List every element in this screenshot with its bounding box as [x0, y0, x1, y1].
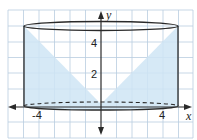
coordinate-plane: y x -4 4 2 4: [0, 0, 197, 140]
right-shaded-wedge: [101, 26, 178, 106]
cylinder-cone-figure: y x -4 4 2 4: [0, 0, 197, 140]
x-tick-label-4: 4: [159, 109, 165, 121]
x-axis-label: x: [185, 109, 192, 123]
y-axis-down-arrow-icon: [98, 127, 104, 135]
x-tick-label-neg4: -4: [32, 109, 42, 121]
y-axis-label: y: [105, 8, 112, 22]
left-shaded-wedge: [24, 26, 101, 106]
y-tick-label-4: 4: [91, 37, 97, 49]
y-axis-up-arrow-icon: [98, 11, 104, 19]
x-axis-left-arrow-icon: [8, 104, 16, 110]
y-tick-label-2: 2: [91, 68, 97, 80]
